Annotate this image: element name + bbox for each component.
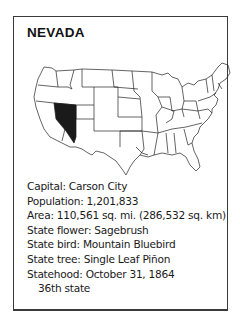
- fact-statehood: Statehood: October 31, 1864: [27, 267, 226, 282]
- fact-capital: Capital: Carson City: [27, 179, 226, 194]
- state-title: NEVADA: [27, 25, 85, 40]
- fact-state-bird: State bird: Mountain Bluebird: [27, 237, 226, 252]
- nevada-highlight: [54, 103, 76, 143]
- fact-area: Area: 110,561 sq. mi. (286,532 sq. km): [27, 208, 226, 223]
- state-facts-list: Capital: Carson City Population: 1,201,8…: [27, 179, 226, 296]
- us-map: [22, 57, 234, 179]
- fact-statehood-order: 36th state: [27, 281, 226, 296]
- state-fact-card: NEVADA: [13, 16, 228, 311]
- fact-state-flower: State flower: Sagebrush: [27, 223, 226, 238]
- fact-state-tree: State tree: Single Leaf Piñon: [27, 252, 226, 267]
- fact-population: Population: 1,201,833: [27, 194, 226, 209]
